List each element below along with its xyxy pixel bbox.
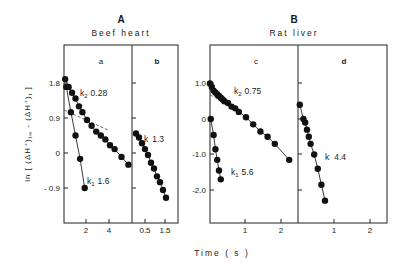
y-tick-label: - 0.9 (44, 184, 61, 193)
data-point (286, 157, 292, 163)
x-tick-label: 1.5 (159, 226, 171, 235)
x-tick-label: 1 (243, 226, 248, 235)
plot-panel-d (297, 102, 329, 204)
data-point (125, 161, 131, 167)
data-point (63, 84, 69, 90)
data-point (315, 166, 321, 172)
data-point (307, 141, 313, 147)
data-point (62, 76, 68, 82)
data-point (79, 109, 85, 115)
annotation-a-k1: k11.6 (87, 176, 110, 187)
x-tick-label: 2 (279, 226, 284, 235)
group-b-letter: B (290, 14, 297, 25)
data-point (84, 117, 90, 123)
group-b-title: Rat liver (269, 28, 318, 38)
x-tick-label: 0.5 (139, 226, 151, 235)
data-point (145, 152, 151, 158)
y-tick-label: -1.0 (192, 150, 206, 159)
panel-label-b: b (155, 57, 160, 66)
data-point (236, 109, 242, 115)
x-tick-label: 2 (84, 226, 89, 235)
data-point (297, 102, 303, 108)
y-tick-label: 1.8 (49, 79, 61, 88)
data-point (250, 121, 256, 127)
data-point (264, 134, 270, 140)
data-point (212, 146, 218, 152)
data-point (210, 132, 216, 138)
group-a-title: Beef heart (91, 28, 150, 38)
panel-label-c: c (254, 57, 258, 66)
data-point (216, 167, 222, 173)
panel-label-d: d (342, 57, 347, 66)
data-point (318, 181, 324, 187)
data-point (77, 156, 83, 162)
data-point (68, 109, 74, 115)
data-point (151, 165, 157, 171)
data-point (272, 141, 278, 147)
data-point (148, 160, 154, 166)
panel-frame-c-d (210, 45, 387, 223)
kinetics-figure: A Beef heart B Rat liver a b c d 1.8 0.9… (0, 0, 405, 265)
data-point (154, 173, 160, 179)
data-point (163, 195, 169, 201)
data-point (257, 128, 263, 134)
y-tick-label: 0 (56, 149, 61, 158)
x-tick-label: 1 (332, 226, 337, 235)
data-point (136, 134, 142, 140)
annotation-c-k1: k15.6 (231, 167, 254, 178)
data-point (304, 126, 310, 132)
data-point (76, 103, 82, 109)
data-point (208, 116, 214, 122)
data-point (214, 157, 220, 163)
group-a-letter: A (117, 14, 124, 25)
y-tick-label: 0.9 (49, 114, 61, 123)
data-point (69, 90, 75, 96)
data-point (218, 176, 224, 182)
x-tick-label: 2 (368, 226, 373, 235)
data-point (306, 134, 312, 140)
x-tick-label: 4 (107, 226, 112, 235)
x-axis-label: Time ( s ) (194, 248, 250, 258)
data-point (142, 146, 148, 152)
x-axis-ticks: 2 4 0.5 1.5 1 2 1 2 (84, 219, 373, 235)
data-point (118, 154, 124, 160)
annotation-b-k: k1.3 (144, 134, 164, 144)
data-point (311, 151, 317, 157)
data-point (322, 197, 328, 203)
panel-label-a: a (99, 57, 104, 66)
data-point (302, 119, 308, 125)
y-tick-label: 1.0 (195, 79, 207, 88)
annotation-a-k2: k20.28 (80, 88, 107, 99)
y-tick-label: -2.0 (192, 186, 206, 195)
data-point (88, 123, 94, 129)
data-point (102, 136, 108, 142)
data-point (157, 179, 163, 185)
y-axis-label: ln [ (ΔH⁺)t∞ - (ΔH⁺)t ] (23, 86, 33, 181)
data-point (72, 95, 78, 101)
data-point (72, 132, 78, 138)
data-point (111, 146, 117, 152)
y-tick-label: 0 (202, 115, 207, 124)
data-point (160, 187, 166, 193)
annotation-d-k: k4.4 (325, 152, 346, 162)
data-point (243, 114, 249, 120)
y-axis-b: 1.0 0 -1.0 -2.0 (192, 79, 302, 195)
annotation-c-k2: k20.75 (234, 86, 261, 97)
